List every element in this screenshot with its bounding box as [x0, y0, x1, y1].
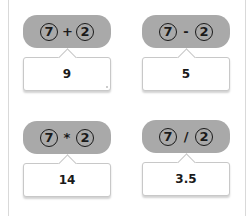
operator: +	[62, 24, 72, 39]
result-box[interactable]: 3.5	[142, 162, 230, 196]
resize-handle-icon	[106, 86, 108, 88]
operand-a: 7	[159, 23, 177, 41]
result-box[interactable]: 5	[142, 57, 230, 91]
operand-b: 2	[76, 129, 94, 147]
operator: /	[181, 129, 191, 144]
callout-arrow	[58, 48, 76, 66]
callout-arrow	[177, 153, 195, 171]
result-value: 9	[63, 67, 71, 81]
operand-b: 2	[195, 128, 213, 146]
right-divider	[245, 0, 246, 216]
expression-pill[interactable]: 7 * 2	[23, 121, 111, 154]
expression-pill[interactable]: 7 - 2	[142, 15, 230, 48]
callout-arrow	[177, 48, 195, 66]
operand-a: 7	[159, 128, 177, 146]
result-value: 3.5	[175, 172, 196, 186]
result-value: 14	[59, 173, 76, 187]
operand-b: 2	[195, 23, 213, 41]
operator: *	[62, 130, 72, 145]
result-value: 5	[182, 67, 190, 81]
expression-pill[interactable]: 7 / 2	[142, 120, 230, 153]
result-box[interactable]: 9	[23, 57, 111, 91]
operand-a: 7	[40, 129, 58, 147]
operand-a: 7	[40, 23, 58, 41]
expression-pill[interactable]: 7 + 2	[23, 15, 111, 48]
callout-arrow	[58, 154, 76, 172]
operand-b: 2	[76, 23, 94, 41]
result-box[interactable]: 14	[23, 163, 111, 197]
operator: -	[181, 24, 191, 39]
left-divider	[8, 0, 9, 216]
